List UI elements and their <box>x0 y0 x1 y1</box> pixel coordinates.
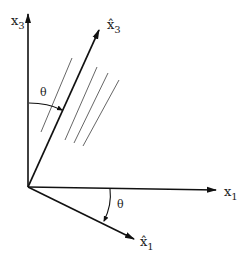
x1-hat-label: x̂1 <box>140 234 154 252</box>
rotated-axes-diagram: x3 x̂3 x1 x̂1 θ θ <box>0 0 249 258</box>
x1-axis <box>28 187 216 190</box>
x3-label: x3 <box>11 13 25 31</box>
x3-hat-label: x̂3 <box>107 17 121 35</box>
angle-arc-top <box>29 103 62 110</box>
x3-hat-axis <box>28 30 99 187</box>
angle-arc-bottom <box>104 189 110 221</box>
x1-hat-axis <box>28 187 134 239</box>
x1-label: x1 <box>224 184 238 202</box>
theta-label-top: θ <box>40 86 47 99</box>
theta-label-bottom: θ <box>117 198 124 211</box>
